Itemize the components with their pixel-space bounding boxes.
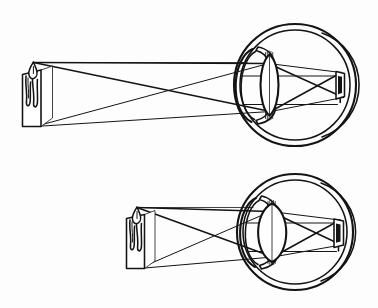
candle-near [127, 207, 156, 269]
diagram-canvas [0, 0, 378, 308]
distant-object-panel [23, 24, 360, 146]
retinal-image-near [334, 219, 344, 251]
light-rays-distant [34, 63, 344, 127]
eye-accommodation-figure [0, 0, 378, 308]
near-object-panel [127, 174, 356, 290]
candle-distant [23, 62, 53, 127]
